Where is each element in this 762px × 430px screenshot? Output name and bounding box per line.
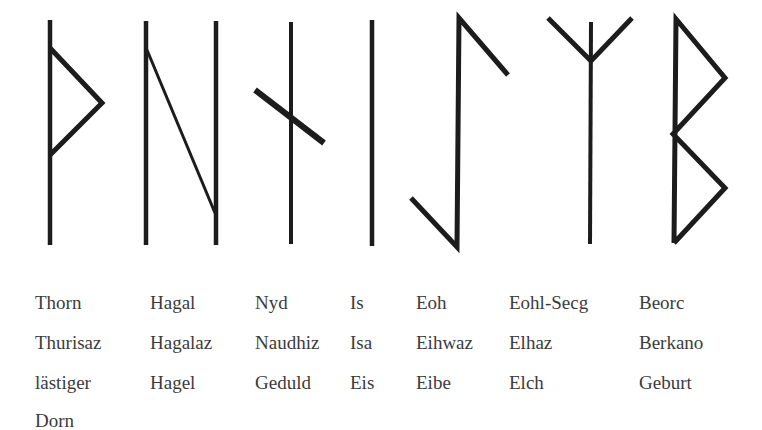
rune-name: Thurisaz xyxy=(35,332,101,354)
rune-name: Dorn xyxy=(35,410,74,430)
rune-name: Eibe xyxy=(416,372,451,394)
thorn-rune-icon xyxy=(50,20,102,245)
rune-name: Naudhiz xyxy=(255,332,319,354)
rune-name: lästiger xyxy=(35,372,91,394)
rune-name: Eihwaz xyxy=(416,332,473,354)
rune-glyphs xyxy=(0,0,762,260)
eohl-secg-rune-icon xyxy=(548,18,632,244)
rune-name: Elhaz xyxy=(509,332,552,354)
hagal-rune-icon xyxy=(146,21,216,245)
rune-name: Isa xyxy=(350,332,372,354)
beorc-rune-icon xyxy=(673,19,725,243)
rune-name: Hagel xyxy=(150,372,195,394)
rune-name: Eis xyxy=(350,372,374,394)
rune-name: Berkano xyxy=(639,332,703,354)
nyd-rune-icon xyxy=(255,22,324,244)
rune-name: Nyd xyxy=(255,292,288,314)
rune-name: Eohl-Secg xyxy=(509,292,588,314)
rune-name: Is xyxy=(350,292,364,314)
rune-name: Elch xyxy=(509,372,544,394)
rune-name: Eoh xyxy=(416,292,447,314)
rune-name: Hagal xyxy=(150,292,195,314)
rune-name: Geduld xyxy=(255,372,311,394)
rune-name: Geburt xyxy=(639,372,692,394)
rune-name: Hagalaz xyxy=(150,332,212,354)
rune-name: Beorc xyxy=(639,292,684,314)
eoh-rune-icon xyxy=(411,18,508,247)
rune-name: Thorn xyxy=(35,292,81,314)
